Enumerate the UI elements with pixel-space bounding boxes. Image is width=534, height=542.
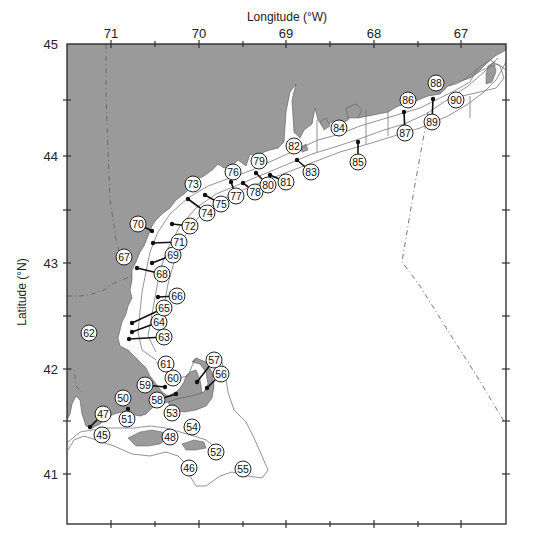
station-76[interactable]: 76 [225, 164, 241, 180]
station-80[interactable]: 80 [260, 177, 276, 193]
station-89[interactable]: 89 [424, 114, 440, 130]
station-79[interactable]: 79 [251, 153, 267, 169]
mainland [67, 44, 506, 428]
station-label: 63 [158, 331, 170, 343]
station-50[interactable]: 50 [115, 390, 131, 406]
station-label: 86 [402, 94, 414, 106]
station-label: 84 [333, 122, 345, 134]
station-83[interactable]: 83 [303, 164, 319, 180]
station-label: 80 [262, 179, 274, 191]
station-label: 69 [167, 249, 179, 261]
x-tick-label: 68 [367, 26, 381, 41]
y-tick-label: 45 [44, 37, 58, 52]
station-59[interactable]: 59 [137, 377, 153, 393]
station-label: 90 [450, 94, 462, 106]
station-61[interactable]: 61 [158, 356, 174, 372]
station-71[interactable]: 71 [171, 234, 187, 250]
station-46[interactable]: 46 [181, 460, 197, 476]
station-label: 68 [156, 268, 168, 280]
station-label: 50 [117, 392, 129, 404]
station-label: 81 [280, 176, 292, 188]
y-tick-label: 42 [44, 362, 58, 377]
x-tick-labels: 71 70 69 68 67 [104, 26, 468, 41]
hague-line [402, 112, 506, 424]
station-label: 88 [430, 77, 442, 89]
station-label: 47 [97, 408, 109, 420]
station-label: 64 [153, 316, 165, 328]
station-label: 59 [139, 379, 151, 391]
station-label: 71 [173, 236, 185, 248]
station-66[interactable]: 66 [169, 288, 185, 304]
station-label: 60 [167, 372, 179, 384]
station-87[interactable]: 87 [397, 125, 413, 141]
station-86[interactable]: 86 [400, 92, 416, 108]
x-tick-label: 70 [192, 26, 206, 41]
station-73[interactable]: 73 [185, 176, 201, 192]
station-label: 57 [208, 354, 220, 366]
station-label: 58 [151, 394, 163, 406]
station-label: 83 [305, 166, 317, 178]
station-label: 53 [166, 407, 178, 419]
station-label: 85 [352, 156, 364, 168]
station-55[interactable]: 55 [235, 461, 251, 477]
station-label: 82 [288, 140, 300, 152]
station-label: 72 [184, 220, 196, 232]
x-tick-label: 69 [279, 26, 293, 41]
station-85[interactable]: 85 [350, 154, 366, 170]
station-label: 75 [215, 198, 227, 210]
station-77[interactable]: 77 [228, 188, 244, 204]
station-82[interactable]: 82 [286, 138, 302, 154]
y-tick-label: 43 [44, 256, 58, 271]
station-51[interactable]: 51 [119, 411, 135, 427]
y-tick-label: 44 [44, 149, 58, 164]
station-label: 46 [183, 462, 195, 474]
station-67[interactable]: 67 [116, 249, 132, 265]
station-56[interactable]: 56 [213, 366, 229, 382]
station-65[interactable]: 65 [156, 300, 172, 316]
station-label: 66 [171, 290, 183, 302]
station-45[interactable]: 45 [94, 427, 110, 443]
nantucket [182, 440, 206, 450]
y-tick-label: 41 [44, 467, 58, 482]
station-label: 73 [187, 178, 199, 190]
station-81[interactable]: 81 [278, 174, 294, 190]
x-axis-title: Longitude (°W) [247, 10, 327, 24]
station-label: 51 [121, 413, 133, 425]
station-48[interactable]: 48 [162, 429, 178, 445]
map-figure: Longitude (°W) Latitude (°N) [0, 0, 534, 542]
station-72[interactable]: 72 [182, 218, 198, 234]
station-68[interactable]: 68 [154, 266, 170, 282]
station-label: 70 [132, 218, 144, 230]
station-label: 79 [253, 155, 265, 167]
station-label: 77 [230, 190, 242, 202]
station-label: 89 [426, 116, 438, 128]
station-label: 48 [164, 431, 176, 443]
station-label: 76 [227, 166, 239, 178]
station-label: 52 [210, 446, 222, 458]
station-70[interactable]: 70 [130, 216, 146, 232]
station-label: 78 [249, 186, 261, 198]
station-62[interactable]: 62 [81, 325, 97, 341]
station-label: 56 [215, 368, 227, 380]
station-47[interactable]: 47 [95, 406, 111, 422]
station-57[interactable]: 57 [206, 352, 222, 368]
station-75[interactable]: 75 [213, 196, 229, 212]
station-54[interactable]: 54 [184, 419, 200, 435]
station-88[interactable]: 88 [428, 75, 444, 91]
station-label: 54 [186, 421, 198, 433]
station-label: 67 [118, 251, 130, 263]
y-tick-labels: 45 44 43 42 41 [44, 37, 58, 482]
station-58[interactable]: 58 [149, 392, 165, 408]
station-84[interactable]: 84 [331, 120, 347, 136]
station-label: 62 [83, 327, 95, 339]
station-53[interactable]: 53 [164, 405, 180, 421]
station-74[interactable]: 74 [199, 205, 215, 221]
station-label: 45 [96, 429, 108, 441]
y-axis-title: Latitude (°N) [15, 258, 29, 326]
station-63[interactable]: 63 [156, 329, 172, 345]
station-label: 55 [237, 463, 249, 475]
station-label: 87 [399, 127, 411, 139]
station-52[interactable]: 52 [208, 444, 224, 460]
station-90[interactable]: 90 [448, 92, 464, 108]
station-60[interactable]: 60 [165, 370, 181, 386]
